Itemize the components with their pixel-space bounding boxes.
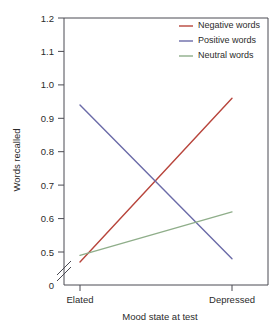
y-tick-label: 0.6 (41, 213, 54, 224)
x-tick-label-depressed: Depressed (209, 294, 255, 305)
x-tick-label-elated: Elated (67, 294, 94, 305)
y-tick-label: 0.5 (41, 247, 54, 258)
x-axis-title: Mood state at test (122, 311, 198, 322)
y-axis-title: Words recalled (11, 128, 22, 191)
line-chart: 1.2 1.1 1.0 0.9 0.8 0.7 0.6 0.5 0 El (0, 0, 277, 326)
legend-label-neutral-words: Neutral words (198, 50, 254, 60)
legend-label-positive-words: Positive words (198, 35, 257, 45)
y-tick-label: 0.8 (41, 146, 54, 157)
y-tick-label: 0.9 (41, 113, 54, 124)
y-tick-label: 0.7 (41, 180, 54, 191)
y-tick-label: 1.0 (41, 79, 54, 90)
y-tick-label: 1.1 (41, 46, 54, 57)
legend-label-negative-words: Negative words (198, 20, 261, 30)
chart-container: 1.2 1.1 1.0 0.9 0.8 0.7 0.6 0.5 0 El (0, 0, 277, 326)
y-tick-label-zero: 0 (49, 280, 54, 291)
y-tick-label: 1.2 (41, 13, 54, 24)
